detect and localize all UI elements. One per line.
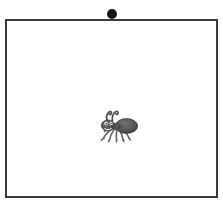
marker-dot[interactable] bbox=[107, 9, 117, 19]
canvas-root: dot bbox=[0, 0, 223, 202]
frame-rectangle[interactable]: ant bbox=[5, 19, 218, 198]
ant-illustration bbox=[95, 107, 141, 147]
